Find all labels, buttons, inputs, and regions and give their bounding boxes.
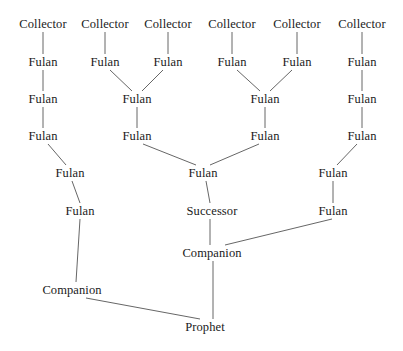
edge-h3-to-i2 <box>210 144 259 165</box>
node-g4-fulan: Fulan <box>348 93 377 106</box>
node-h3-fulan: Fulan <box>251 130 280 143</box>
node-f5-fulan: Fulan <box>283 56 312 69</box>
node-h4-fulan: Fulan <box>348 130 377 143</box>
node-i3-fulan: Fulan <box>319 167 348 180</box>
node-j3-fulan: Fulan <box>319 205 348 218</box>
node-c6-collector: Collector <box>338 18 385 31</box>
node-i1-fulan: Fulan <box>56 167 85 180</box>
node-h1-fulan: Fulan <box>29 130 58 143</box>
node-f6-fulan: Fulan <box>348 56 377 69</box>
edge-f5-to-g3 <box>270 70 292 91</box>
node-g2-fulan: Fulan <box>123 93 152 106</box>
node-f4-fulan: Fulan <box>218 56 247 69</box>
node-c5-collector: Collector <box>273 18 320 31</box>
edge-f3-to-g2 <box>142 70 163 91</box>
edge-h2-to-i2 <box>143 144 196 165</box>
edge-j1-to-k2 <box>76 219 80 282</box>
node-h2-fulan: Fulan <box>123 130 152 143</box>
node-k1-companion: Companion <box>182 247 241 260</box>
node-c4-collector: Collector <box>208 18 255 31</box>
edge-h1-to-i1 <box>48 144 66 165</box>
edge-i1-to-j1 <box>72 181 80 203</box>
node-f1-fulan: Fulan <box>29 56 58 69</box>
node-g3-fulan: Fulan <box>251 93 280 106</box>
node-j2-successor: Successor <box>187 205 238 218</box>
node-c1-collector: Collector <box>19 18 66 31</box>
node-i2-fulan: Fulan <box>189 167 218 180</box>
node-f2-fulan: Fulan <box>91 56 120 69</box>
node-g1-fulan: Fulan <box>29 93 58 106</box>
edge-k2-to-p1 <box>86 298 200 319</box>
edge-f2-to-g2 <box>110 70 132 91</box>
edge-f4-to-g3 <box>237 70 260 91</box>
edge-j3-to-k1 <box>225 219 332 245</box>
isnad-tree-diagram: CollectorCollectorCollectorCollectorColl… <box>0 0 403 351</box>
node-f3-fulan: Fulan <box>154 56 183 69</box>
node-c2-collector: Collector <box>81 18 128 31</box>
node-p1-prophet: Prophet <box>185 321 225 334</box>
node-k2-companion: Companion <box>42 284 101 297</box>
node-j1-fulan: Fulan <box>66 205 95 218</box>
edge-i2-to-j2 <box>206 181 210 203</box>
node-c3-collector: Collector <box>144 18 191 31</box>
edge-h4-to-i3 <box>337 144 357 165</box>
